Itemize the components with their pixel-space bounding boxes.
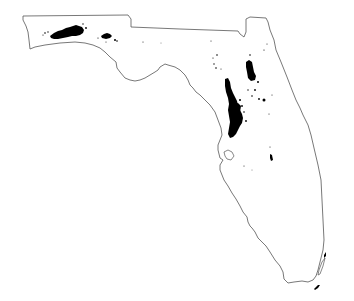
florida-map [0, 0, 354, 301]
florida-map-svg [0, 0, 354, 301]
florida-outline [23, 15, 324, 283]
